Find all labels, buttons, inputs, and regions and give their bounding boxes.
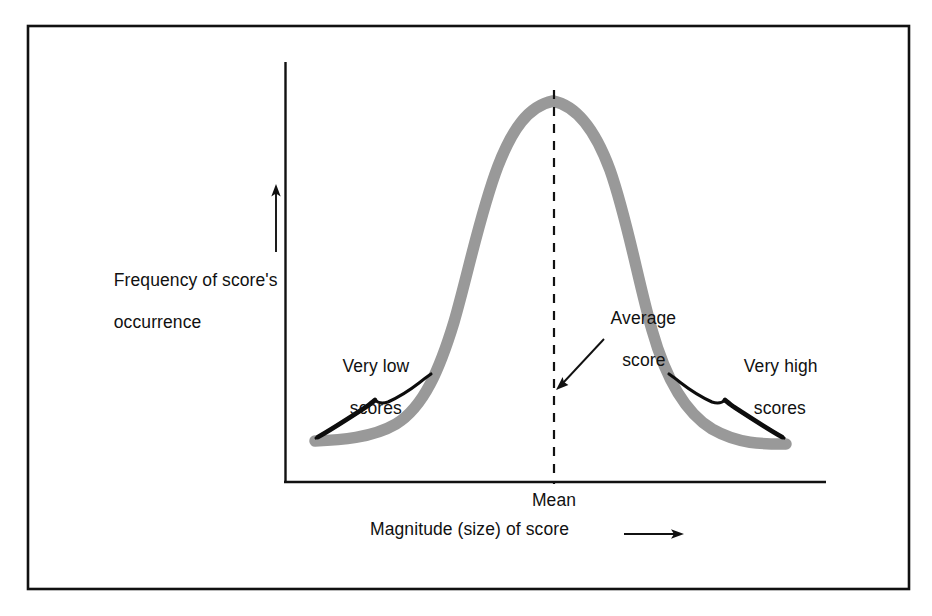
mean-tick-label: Mean: [498, 490, 610, 511]
y-axis-label-line2: occurrence: [114, 312, 202, 332]
y-axis-label: Frequency of score's occurrence: [84, 249, 278, 354]
average-score-label-line1: Average: [611, 308, 677, 328]
average-score-label-line2: score: [622, 350, 665, 370]
right-arrow-icon: [624, 529, 684, 539]
up-arrow-icon: [271, 184, 280, 252]
very-high-scores-label-line2: scores: [754, 398, 806, 418]
figure-container: Frequency of score's occurrence Average …: [0, 0, 932, 616]
very-low-scores-label: Very low scores: [310, 335, 412, 440]
very-low-scores-label-line1: Very low: [342, 356, 409, 376]
very-high-scores-label-line1: Very high: [744, 356, 818, 376]
very-high-scores-label: Very high scores: [714, 335, 816, 440]
diagram-stage: Frequency of score's occurrence Average …: [0, 0, 932, 616]
very-low-scores-label-line2: scores: [350, 398, 402, 418]
x-axis-label: Magnitude (size) of score: [370, 519, 569, 540]
y-axis-label-line1: Frequency of score's: [114, 270, 278, 290]
average-score-label: Average score: [575, 287, 683, 392]
